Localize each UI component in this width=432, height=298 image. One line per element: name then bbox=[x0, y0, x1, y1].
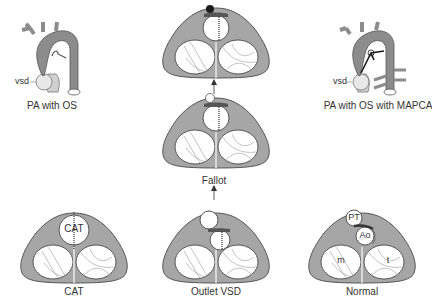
caption-normal: Normal bbox=[346, 286, 378, 297]
label-pt: PT bbox=[348, 212, 360, 222]
caption-cat: CAT bbox=[64, 286, 83, 297]
diagram-canvas bbox=[0, 0, 432, 298]
caption-fallot: Fallot bbox=[202, 175, 226, 186]
vsd-label: vsd bbox=[333, 76, 347, 86]
caption-pa-with-os-mapca: PA with OS with MAPCA bbox=[324, 100, 432, 111]
pa-with-os-illustration bbox=[22, 22, 80, 95]
outlet-vsd-illustration bbox=[163, 211, 269, 283]
caption-outlet-vsd: Outlet VSD bbox=[191, 286, 241, 297]
fallot-illustration bbox=[163, 94, 269, 169]
fallot-severe-illustration bbox=[163, 5, 269, 78]
label-m: m bbox=[337, 255, 345, 265]
label-t: t bbox=[387, 255, 390, 265]
caption-pa-with-os: PA with OS bbox=[27, 100, 77, 111]
label-ao: Ao bbox=[359, 230, 370, 240]
arrow-up-icon bbox=[211, 79, 217, 94]
vsd-label: vsd bbox=[15, 76, 29, 86]
cat-inner-label: CAT bbox=[64, 223, 83, 234]
normal-illustration bbox=[309, 210, 415, 283]
arrow-up-icon bbox=[211, 185, 217, 200]
pa-with-os-mapca-illustration bbox=[340, 22, 406, 95]
